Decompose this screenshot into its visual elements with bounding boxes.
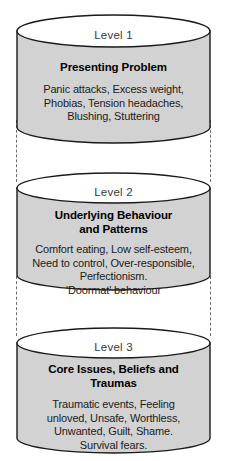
level-2-body: Comfort eating, Low self-esteem, Need to… xyxy=(16,243,211,297)
level-2-title-line: and Patterns xyxy=(16,223,211,237)
level-3-title: Core Issues, Beliefs and Traumas xyxy=(16,363,211,390)
level-2-label: Level 2 xyxy=(16,185,211,199)
level-1-body: Panic attacks, Excess weight, Phobias, T… xyxy=(16,83,211,124)
level-3-body-line: unloved, Unsafe, Worthless, xyxy=(16,412,211,426)
level-2-body-line: Comfort eating, Low self-esteem, xyxy=(16,243,211,257)
level-1-body-line: Panic attacks, Excess weight, xyxy=(16,83,211,97)
level-3-body: Traumatic events, Feeling unloved, Unsaf… xyxy=(16,398,211,452)
level-1-title: Presenting Problem xyxy=(16,61,211,75)
level-2-body-line: 'Doormat' behaviour xyxy=(16,284,211,298)
level-3-body-line: Unwanted, Guilt, Shame. xyxy=(16,425,211,439)
level-3-body-line: Traumatic events, Feeling xyxy=(16,398,211,412)
level-2-title: Underlying Behaviour and Patterns xyxy=(16,209,211,236)
level-3-cylinder: Level 3 Core Issues, Beliefs and Traumas… xyxy=(16,327,211,455)
level-2-body-line: Need to control, Over-responsible, xyxy=(16,257,211,271)
level-1-cylinder: Level 1 Presenting Problem Panic attacks… xyxy=(16,14,211,144)
level-1-body-line: Phobias, Tension headaches, xyxy=(16,97,211,111)
level-3-title-line: Core Issues, Beliefs and xyxy=(16,363,211,377)
level-2-body-line: Perfectionism. xyxy=(16,270,211,284)
level-3-body-line: Survival fears. xyxy=(16,439,211,453)
level-3-title-line: Traumas xyxy=(16,377,211,391)
level-1-body-line: Blushing, Stuttering xyxy=(16,110,211,124)
level-3-label: Level 3 xyxy=(16,340,211,354)
level-2-cylinder: Level 2 Underlying Behaviour and Pattern… xyxy=(16,172,211,292)
level-2-title-line: Underlying Behaviour xyxy=(16,209,211,223)
level-1-label: Level 1 xyxy=(16,28,211,42)
levels-diagram: Level 1 Presenting Problem Panic attacks… xyxy=(0,0,227,461)
